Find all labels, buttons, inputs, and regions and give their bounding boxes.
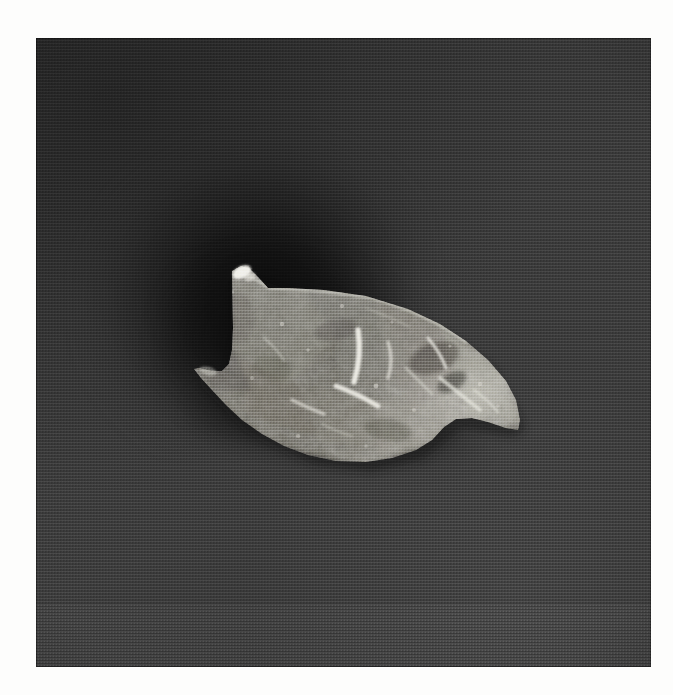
photo-plate — [36, 38, 651, 667]
stone-projectile-point — [36, 38, 651, 667]
artifact-body — [176, 248, 546, 490]
artifact-layer — [36, 38, 651, 667]
photograph-page: Black and white photograph of a chipped … — [0, 0, 673, 695]
